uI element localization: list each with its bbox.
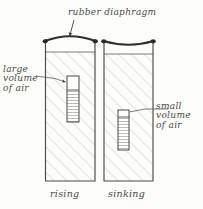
left-diver-air-gap (67, 76, 79, 90)
left-clamp-knob-left (43, 39, 48, 43)
diagram-canvas: rubber diaphragm large volume of air sma… (0, 0, 203, 209)
caption-rising: rising (50, 189, 80, 199)
left-diver-water (67, 90, 79, 122)
right-diver (118, 110, 129, 150)
caption-sinking: sinking (108, 189, 145, 199)
right-clamp-knob-left (101, 39, 106, 43)
left-diver (67, 76, 79, 122)
large-volume-label-line3: of air (3, 84, 38, 93)
small-volume-label: small volume of air (156, 102, 191, 130)
small-volume-label-line3: of air (156, 121, 191, 130)
right-rubber-diaphragm (104, 41, 154, 45)
left-rubber-diaphragm (45, 36, 96, 41)
right-diver-air-gap (118, 110, 129, 117)
diagram-title: rubber diaphragm (68, 8, 156, 17)
right-diver-water (118, 117, 129, 150)
title-leader-line (70, 20, 75, 37)
left-clamp-knob-right (93, 39, 98, 43)
right-clamp-knob-right (151, 39, 156, 43)
left-jar-group (36, 36, 98, 181)
large-volume-label: large volume of air (3, 65, 38, 93)
